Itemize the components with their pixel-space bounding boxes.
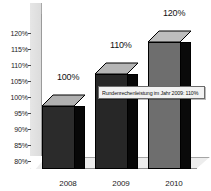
bar-2010[interactable]: [148, 31, 181, 169]
tooltip-text: Rundenrechenleistung im Jahr 2009: 110%: [102, 90, 198, 96]
bar-side-face-2008: [74, 106, 85, 169]
x-axis-label-2009: 2009: [101, 180, 141, 188]
bar-top-face-2009: [95, 63, 128, 74]
bar-value-label-2009: 110%: [110, 41, 132, 50]
x-axis-label-2010: 2010: [154, 180, 194, 188]
data-tooltip[interactable]: Rundenrechenleistung im Jahr 2009: 110%: [98, 86, 205, 99]
bar-2008[interactable]: [42, 95, 75, 169]
bar-chart-3d: 120% 115% 110% 105% 100% 95% 90% 85% 80%: [0, 0, 211, 191]
bar-top-face-2010: [148, 31, 181, 42]
bar-value-label-2010: 120%: [163, 9, 185, 18]
bar-front-face-2010: [148, 42, 181, 169]
bar-2009[interactable]: [95, 63, 128, 169]
bar-top-face-2008: [42, 95, 75, 106]
bar-value-label-2008: 100%: [57, 73, 79, 82]
x-axis-label-2008: 2008: [48, 180, 88, 188]
bar-side-face-2010: [180, 42, 191, 169]
bar-front-face-2008: [42, 106, 75, 169]
